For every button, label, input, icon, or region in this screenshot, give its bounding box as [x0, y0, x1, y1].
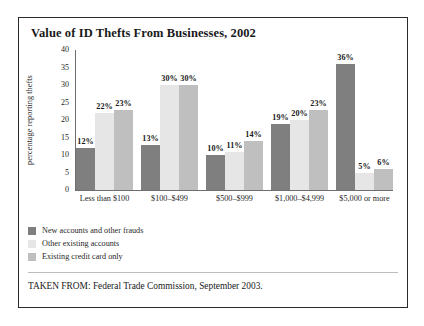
bar-groups: 12%22%23%13%30%30%10%11%14%19%20%23%36%5…	[76, 50, 393, 190]
bar-value-label: 11%	[227, 141, 243, 150]
bar-column: 30%	[160, 50, 179, 190]
category-label: $500–$999	[206, 194, 263, 203]
bar	[271, 124, 290, 191]
bar	[160, 85, 179, 190]
x-axis-line	[75, 190, 393, 191]
bar-column: 30%	[179, 50, 198, 190]
category-label: $5,000 or more	[336, 194, 393, 203]
bar-column: 19%	[271, 50, 290, 190]
bar-column: 5%	[355, 50, 374, 190]
legend-label: Other existing accounts	[42, 239, 119, 248]
y-tick-label: 40	[45, 46, 69, 54]
bar-value-label: 14%	[245, 130, 261, 139]
legend-label: Existing credit card only	[42, 252, 123, 261]
bar	[114, 110, 133, 191]
chart-legend: New accounts and other fraudsOther exist…	[28, 224, 143, 263]
legend-item: New accounts and other frauds	[28, 224, 143, 237]
bar-value-label: 30%	[161, 74, 177, 83]
bar	[336, 64, 355, 190]
category-label: $100–$499	[141, 194, 198, 203]
y-tick-label: 15	[45, 134, 69, 142]
bar-column: 11%	[225, 50, 244, 190]
bar-group: 13%30%30%	[141, 50, 198, 190]
bar-value-label: 5%	[358, 162, 370, 171]
chart-plot-area: percentage reporting thefts 051015202530…	[31, 50, 397, 218]
y-tick-label: 20	[45, 116, 69, 124]
bar	[95, 113, 114, 190]
y-tick-label: 35	[45, 64, 69, 72]
bar	[225, 152, 244, 191]
bar	[141, 145, 160, 191]
bar-column: 13%	[141, 50, 160, 190]
bar-column: 36%	[336, 50, 355, 190]
bar-group: 19%20%23%	[271, 50, 328, 190]
legend-swatch	[28, 253, 36, 261]
bar-column: 22%	[95, 50, 114, 190]
bar-value-label: 6%	[377, 158, 389, 167]
legend-swatch	[28, 227, 36, 235]
bar	[290, 120, 309, 190]
y-tick-label: 10	[45, 151, 69, 159]
category-label: $1,000–$4,999	[271, 194, 328, 203]
legend-label: New accounts and other frauds	[42, 226, 143, 235]
bar	[76, 148, 95, 190]
bar-value-label: 12%	[77, 137, 93, 146]
y-tick-label: 30	[45, 81, 69, 89]
bar	[355, 173, 374, 191]
bar	[206, 155, 225, 190]
bar-value-label: 30%	[180, 74, 196, 83]
bar-value-label: 22%	[96, 102, 112, 111]
bar-group: 10%11%14%	[206, 50, 263, 190]
bar-value-label: 13%	[142, 134, 158, 143]
bar-column: 23%	[309, 50, 328, 190]
bar-value-label: 20%	[291, 109, 307, 118]
bar	[374, 169, 393, 190]
bar-column: 10%	[206, 50, 225, 190]
bar	[179, 85, 198, 190]
bar-value-label: 23%	[310, 99, 326, 108]
bar-value-label: 36%	[337, 53, 353, 62]
x-axis-category-labels: Less than $100$100–$499$500–$999$1,000–$…	[76, 194, 393, 203]
bar-value-label: 10%	[207, 144, 223, 153]
bar-column: 14%	[244, 50, 263, 190]
legend-swatch	[28, 240, 36, 248]
y-tick-label: 5	[45, 169, 69, 177]
bar-group: 36%5%6%	[336, 50, 393, 190]
y-tick-label: 25	[45, 99, 69, 107]
y-tick-label: 0	[45, 186, 69, 194]
category-label: Less than $100	[76, 194, 133, 203]
bar-group: 12%22%23%	[76, 50, 133, 190]
bar-column: 12%	[76, 50, 95, 190]
y-axis-tick-labels: 0510152025303540	[45, 50, 69, 190]
y-axis-label: percentage reporting thefts	[25, 50, 39, 190]
source-divider	[28, 272, 398, 273]
legend-item: Other existing accounts	[28, 237, 143, 250]
legend-item: Existing credit card only	[28, 250, 143, 263]
source-note: TAKEN FROM: Federal Trade Commission, Se…	[28, 281, 263, 291]
figure-title: Value of ID Thefts From Businesses, 2002	[31, 26, 256, 41]
bar	[244, 141, 263, 190]
bar-value-label: 23%	[115, 99, 131, 108]
bar-column: 20%	[290, 50, 309, 190]
bar-value-label: 19%	[272, 113, 288, 122]
bar-column: 6%	[374, 50, 393, 190]
bar-column: 23%	[114, 50, 133, 190]
figure-frame: Value of ID Thefts From Businesses, 2002…	[18, 17, 408, 308]
bar	[309, 110, 328, 191]
